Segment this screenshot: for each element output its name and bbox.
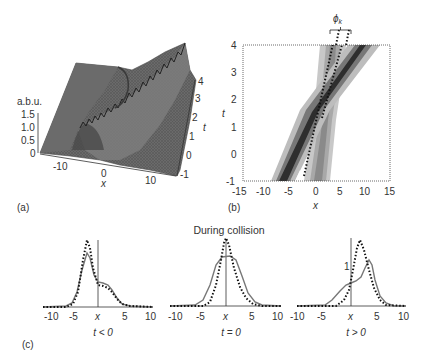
x-tick: -10 xyxy=(168,311,183,322)
z-tick: 0 xyxy=(30,148,36,159)
t-tick: 2 xyxy=(192,112,198,123)
x-tick: 5 xyxy=(374,311,380,322)
solid-curve xyxy=(170,256,281,306)
subplot-t-zero: -10 -5 x 5 10 t = 0 xyxy=(168,238,284,338)
x-axis-label: x xyxy=(100,178,107,189)
x-axis-label: x xyxy=(312,200,319,211)
x-tick: 10 xyxy=(398,311,410,322)
x-axis-label: x xyxy=(94,311,101,322)
x-axis-label: x xyxy=(222,311,229,322)
x-tick: 10 xyxy=(145,311,157,322)
t-tick: 4 xyxy=(198,76,204,87)
panel-b: ϕk 4 3 2 t 1 0 -1 -15 -10 -5 0 5 10 15 x… xyxy=(222,13,396,213)
z-tick: 0.5 xyxy=(21,135,35,146)
panel-label-c: (c) xyxy=(22,339,34,350)
figure: a.b.u. 1.5 1.0 0.5 0 -10 0 x 10 4 3 2 t … xyxy=(0,0,423,361)
x-tick: -5 xyxy=(69,311,78,322)
x-tick: 5 xyxy=(122,311,128,322)
panel-c: During collision -10 -5 x 5 10 t < 0 -10… xyxy=(22,224,410,350)
z-axis-label: a.b.u. xyxy=(17,96,42,107)
t-tick: 0 xyxy=(186,150,192,161)
x-tick: -10 xyxy=(256,186,271,197)
x-tick: 10 xyxy=(272,311,284,322)
x-tick: -10 xyxy=(290,311,305,322)
y-axis-label: t xyxy=(222,108,226,119)
panel-label-a: (a) xyxy=(17,202,29,213)
dotted-curve xyxy=(297,240,406,306)
x-tick: -5 xyxy=(196,311,205,322)
panel-a: a.b.u. 1.5 1.0 0.5 0 -10 0 x 10 4 3 2 t … xyxy=(17,43,207,213)
dotted-curve xyxy=(170,238,281,306)
caption: t = 0 xyxy=(221,327,241,338)
x-tick: 10 xyxy=(359,186,371,197)
t-axis-label: t xyxy=(203,122,207,133)
t-tick: 1 xyxy=(189,131,195,142)
x-tick: 15 xyxy=(384,186,396,197)
y-tick: 3 xyxy=(231,67,237,78)
x-axis-label: x xyxy=(347,311,354,322)
z-tick: 1.0 xyxy=(21,122,35,133)
panel-c-title: During collision xyxy=(193,224,264,236)
x-tick: 0 xyxy=(313,186,319,197)
t-tick: 3 xyxy=(195,93,201,104)
x-tick: -10 xyxy=(53,161,68,172)
y-tick: 0 xyxy=(231,149,237,160)
subplot-t-negative: -10 -5 x 5 10 t < 0 xyxy=(43,240,157,338)
subplot-t-positive: 1 -10 -5 x 5 10 t > 0 xyxy=(290,238,410,338)
caption: t < 0 xyxy=(93,327,113,338)
x-tick: 5 xyxy=(337,186,343,197)
x-tick: -5 xyxy=(317,311,326,322)
x-tick: -15 xyxy=(232,186,247,197)
contour-plot xyxy=(271,30,380,181)
y-tick: 4 xyxy=(231,40,237,51)
x-tick: -10 xyxy=(44,311,59,322)
y-tick: 2 xyxy=(231,94,237,105)
z-tick: 1.5 xyxy=(21,109,35,120)
caption: t > 0 xyxy=(346,327,366,338)
x-tick: 5 xyxy=(249,311,255,322)
phase-annotation: ϕk xyxy=(333,13,343,25)
panel-label-b: (b) xyxy=(228,202,240,213)
y-tick: 1 xyxy=(231,122,237,133)
y-tick: 1 xyxy=(344,261,350,272)
solid-curve xyxy=(297,260,406,306)
x-tick: 10 xyxy=(145,175,157,186)
t-tick: -1 xyxy=(180,169,189,180)
x-tick: -5 xyxy=(284,186,293,197)
phase-bracket xyxy=(330,27,351,34)
